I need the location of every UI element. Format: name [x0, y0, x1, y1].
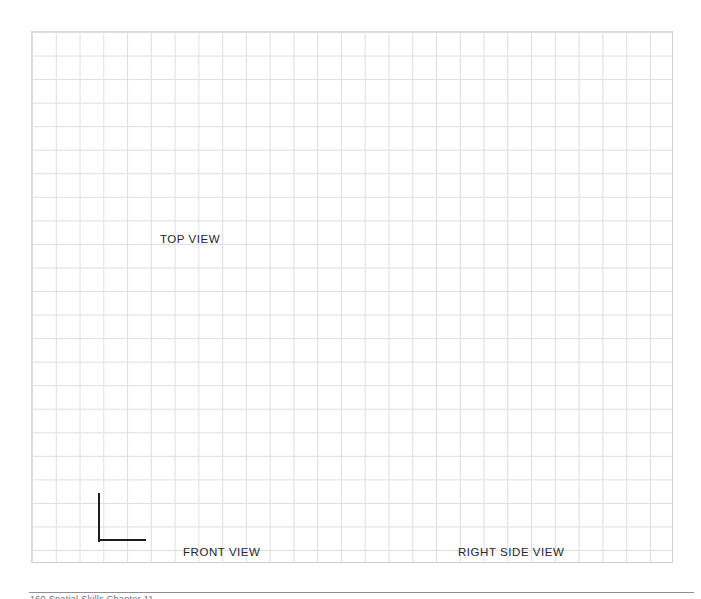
outline-horizontal-segment	[98, 539, 146, 541]
footer-divider	[29, 592, 694, 593]
top-view-label: TOP VIEW	[160, 233, 220, 245]
front-view-label: FRONT VIEW	[183, 546, 260, 558]
right-side-view-label: RIGHT SIDE VIEW	[458, 546, 564, 558]
worksheet-page: TOP VIEW FRONT VIEW RIGHT SIDE VIEW 160 …	[0, 0, 701, 599]
drawing-grid[interactable]	[31, 31, 673, 563]
footer-caption: 160 Spatial Skills Chapter 11	[30, 594, 430, 599]
outline-vertical-segment	[98, 493, 100, 542]
